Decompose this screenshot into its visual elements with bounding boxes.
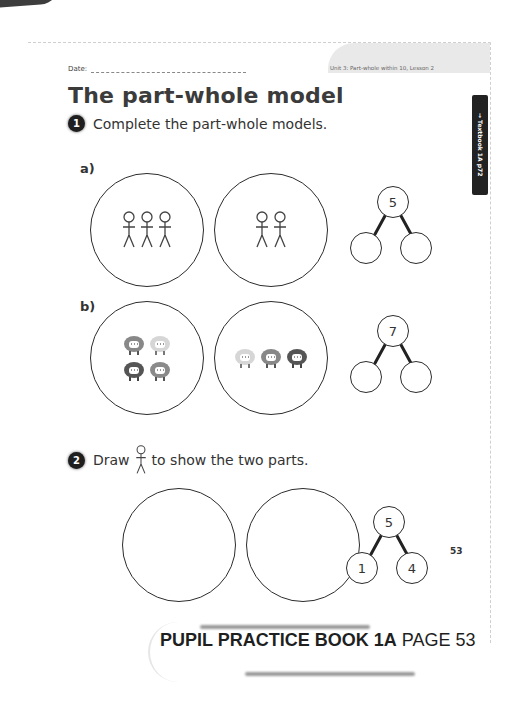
part-right-node[interactable] [400, 361, 432, 393]
page-title: The part-whole model [68, 83, 344, 108]
part-left-node[interactable] [350, 232, 382, 264]
part-a-left-circle [90, 173, 204, 287]
stick-figure-group [255, 211, 287, 249]
question-1: 1 Complete the part-whole models. [68, 115, 327, 132]
part-left-node: 1 [346, 552, 378, 584]
date-label: Date: [68, 65, 87, 73]
question-number-badge: 2 [68, 452, 85, 469]
page-number: 53 [450, 546, 463, 556]
footer-bar-top [200, 625, 370, 629]
part-left-node[interactable] [350, 361, 382, 393]
footer-page: PAGE 53 [402, 630, 476, 650]
stick-figure-group [122, 211, 172, 249]
stick-figure-icon [158, 211, 172, 249]
sheep-group [234, 347, 308, 369]
whole-node: 7 [377, 315, 409, 347]
whole-node: 5 [373, 506, 405, 538]
sheep-icon [123, 360, 145, 382]
draw-left-circle[interactable] [122, 488, 236, 602]
unit-label: Unit 3: Part-whole within 10, Lesson 2 [330, 65, 434, 71]
question-2-part-whole-model: 5 1 4 [344, 506, 434, 586]
footer-bar-bottom [245, 672, 415, 676]
date-line [91, 72, 246, 73]
part-right-node: 4 [396, 552, 428, 584]
whole-node: 5 [377, 186, 409, 218]
question-prompt: Complete the part-whole models. [93, 116, 327, 132]
sheep-icon [149, 360, 171, 382]
stick-figure-icon [255, 211, 269, 249]
part-b-label: b) [80, 299, 95, 314]
footer-caption: PUPIL PRACTICE BOOK 1A PAGE 53 [160, 630, 475, 651]
sheep-icon [234, 347, 256, 369]
question-number-badge: 1 [68, 115, 85, 132]
stick-figure-icon [122, 211, 136, 249]
sheep-group [123, 334, 171, 382]
date-field: Date: [68, 65, 246, 73]
part-b-part-whole-model: 7 [348, 315, 438, 395]
textbook-reference-tab: → Textbook 1A p72 [472, 95, 488, 195]
page-corner-shadow [0, 0, 61, 9]
question-2: 2 Draw to show the two parts. [68, 445, 309, 475]
part-a-right-circle [214, 173, 328, 287]
footer-book-title: PUPIL PRACTICE BOOK 1A [160, 630, 397, 650]
part-right-node[interactable] [400, 232, 432, 264]
part-a-part-whole-model: 5 [348, 186, 438, 266]
sheep-icon [286, 347, 308, 369]
part-b-left-circle [90, 301, 204, 415]
draw-right-circle[interactable] [246, 488, 360, 602]
stick-figure-icon [140, 211, 154, 249]
question-prompt-before: Draw [93, 452, 130, 468]
stick-figure-icon [273, 211, 287, 249]
stick-figure-icon [134, 445, 148, 475]
sheep-icon [123, 334, 145, 356]
part-a-label: a) [80, 161, 95, 176]
question-prompt-after: to show the two parts. [152, 452, 309, 468]
sheep-icon [149, 334, 171, 356]
worksheet-page: Date: Unit 3: Part-whole within 10, Less… [28, 42, 491, 643]
sheep-icon [260, 347, 282, 369]
part-b-right-circle [214, 301, 328, 415]
